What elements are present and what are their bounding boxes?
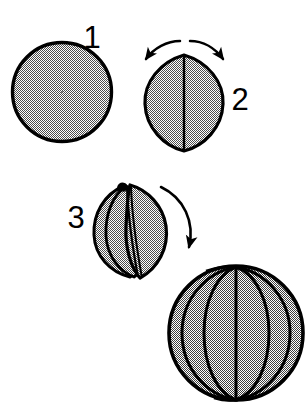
step-label-1: 1 <box>83 20 100 55</box>
curved-arrow-right-icon <box>190 41 223 59</box>
assembled-sphere-group <box>169 266 303 400</box>
curved-arrow-left-icon <box>146 41 180 59</box>
sphere-construction-diagram: 1 2 3 <box>0 0 307 411</box>
petal-apex-tab <box>118 183 127 191</box>
step-3-group: 3 <box>67 183 190 278</box>
step-2-group: 2 <box>145 41 249 151</box>
step-1-group: 1 <box>13 20 112 142</box>
diagram-canvas: 1 2 3 <box>0 0 307 411</box>
step-label-2: 2 <box>231 82 248 117</box>
disc-center-dot <box>61 91 63 93</box>
step-label-3: 3 <box>67 200 84 235</box>
